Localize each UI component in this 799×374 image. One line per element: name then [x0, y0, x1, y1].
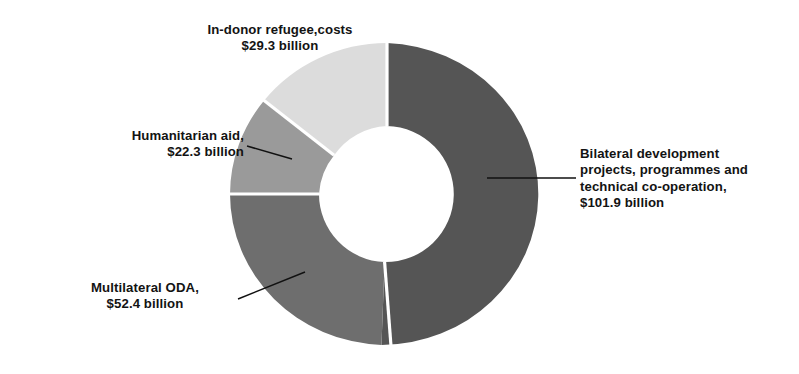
slice-label-multilateral-oda: Multilateral ODA, $52.4 billion [46, 280, 244, 313]
slice-multilateral-oda[interactable] [230, 194, 385, 345]
slice-label-in-donor-refugee-costs: In-donor refugee,costs $29.3 billion [156, 22, 404, 55]
slice-label-humanitarian-aid: Humanitarian aid, $22.3 billion [60, 128, 244, 161]
slice-label-bilateral-development: Bilateral development projects, programm… [580, 146, 794, 212]
slice-bilateral-development[interactable] [382, 43, 539, 345]
chart-page: In-donor refugee,costs $29.3 billion Hum… [0, 0, 799, 374]
